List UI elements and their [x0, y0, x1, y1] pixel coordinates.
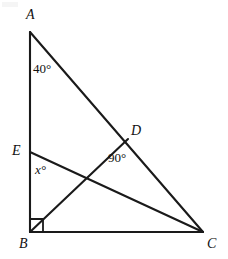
geometry-canvas	[0, 0, 228, 259]
angle-label-e-x: x°	[35, 163, 46, 176]
vertex-label-a: A	[26, 8, 35, 22]
angle-label-a-40: 40°	[33, 62, 51, 75]
vertex-label-c: C	[207, 237, 216, 251]
vertex-label-b: B	[19, 237, 28, 251]
triangle-outline	[30, 32, 203, 232]
angle-label-d-90: 90°	[108, 151, 126, 164]
geometry-figure: A B C D E 40° 90° x°	[0, 0, 228, 259]
vertex-label-e: E	[12, 144, 21, 158]
segment-ac	[30, 32, 203, 232]
vertex-label-d: D	[131, 124, 141, 138]
